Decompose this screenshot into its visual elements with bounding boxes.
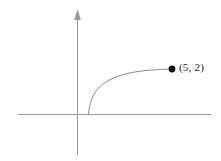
curve-path [89, 69, 173, 114]
endpoint-marker [169, 66, 176, 73]
endpoint-coordinate-label: (5, 2) [179, 62, 204, 73]
plot-canvas [0, 0, 221, 161]
y-axis-arrow-icon [74, 9, 81, 20]
coordinate-plane-figure: (5, 2) [0, 0, 221, 161]
